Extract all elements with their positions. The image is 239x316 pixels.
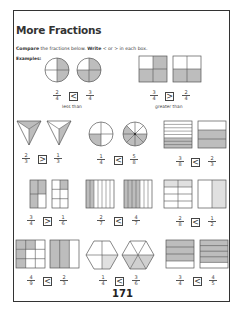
fraction-right: 12: [208, 216, 216, 227]
page-title: More Fractions: [16, 24, 101, 36]
fraction-right: 23: [60, 275, 68, 286]
fraction-left: 14: [97, 154, 105, 165]
vbars-fraction-2-7-icon: [86, 180, 114, 208]
compare-box[interactable]: >: [38, 155, 47, 164]
fraction-left: 28: [176, 216, 184, 227]
compare-box[interactable]: >: [165, 92, 174, 101]
caption-greater-than: greater than: [155, 104, 183, 109]
compare-box[interactable]: <: [191, 218, 200, 227]
grid-fraction-4-9-icon: [16, 240, 45, 268]
hexagon-fraction-3-6-icon: [122, 241, 154, 269]
caption-less-than: less than: [62, 104, 82, 109]
bars-fraction-3-4-icon: [166, 240, 194, 268]
fraction-left: 24: [53, 90, 61, 101]
circle-fraction-1-4-icon: [88, 121, 114, 147]
instructions: Compare the fractions below. Write < or …: [16, 46, 147, 51]
fraction-right: 13: [54, 153, 62, 164]
circle-fraction-5-8-icon: [122, 121, 148, 147]
fraction-left: 34: [27, 215, 35, 226]
fraction-right: 34: [86, 90, 94, 101]
page-number: 171: [112, 288, 133, 299]
fraction-left: 34: [176, 275, 184, 286]
instr-compare: Compare: [16, 46, 39, 51]
bars-fraction-4-5-icon: [200, 240, 228, 268]
fraction-right: 45: [209, 275, 217, 286]
circle-fraction-3-4-icon: [76, 57, 102, 83]
compare-box[interactable]: <: [69, 92, 78, 101]
square-fraction-3-4-icon: [139, 56, 167, 82]
instr-mid: the fractions below.: [39, 46, 87, 51]
instr-write: Write: [87, 46, 101, 51]
examples-label: Examples:: [16, 56, 41, 61]
fraction-right: 47: [132, 215, 140, 226]
circle-fraction-2-4-icon: [44, 57, 70, 83]
hexagon-fraction-1-4-icon: [86, 241, 118, 269]
compare-box[interactable]: <: [114, 217, 123, 226]
fraction-left: 23: [22, 153, 30, 164]
compare-box[interactable]: <: [114, 156, 123, 165]
fraction-right: 58: [130, 154, 138, 165]
fraction-left: 34: [150, 90, 158, 101]
fraction-right: 23: [208, 156, 216, 167]
fraction-right: 36: [132, 275, 140, 286]
instr-rest: < or > in each box.: [101, 46, 147, 51]
grid-fraction-2-8-icon: [164, 180, 192, 208]
fraction-left: 27: [97, 215, 105, 226]
rect-fraction-1-2-icon: [198, 180, 226, 208]
fraction-left: 49: [27, 275, 35, 286]
grid-fraction-1-6-icon: [52, 180, 68, 208]
triangle-fraction-1-3-icon: [46, 120, 72, 146]
square-fraction-2-4-icon: [173, 56, 201, 82]
fraction-left: 14: [99, 275, 107, 286]
fraction-right: 16: [59, 215, 67, 226]
triangle-fraction-2-3-icon: [16, 120, 42, 146]
vbars-fraction-4-7-icon: [124, 180, 152, 208]
fraction-right: 24: [182, 90, 190, 101]
grid-fraction-3-4-icon: [30, 180, 46, 208]
rect-fraction-2-3-icon: [50, 240, 79, 268]
bars-fraction-3-8-icon: [164, 121, 192, 148]
compare-box[interactable]: <: [193, 277, 202, 286]
compare-box[interactable]: >: [43, 217, 52, 226]
bars-fraction-2-3-icon: [198, 121, 226, 148]
compare-box[interactable]: <: [43, 277, 52, 286]
fraction-left: 38: [176, 156, 184, 167]
compare-box[interactable]: <: [191, 158, 200, 167]
compare-box[interactable]: <: [115, 277, 124, 286]
